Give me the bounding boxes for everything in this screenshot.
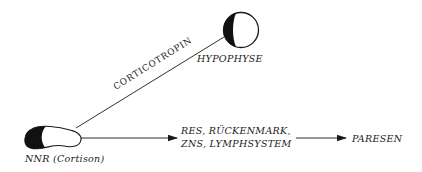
hypophyse-gland-icon bbox=[223, 13, 258, 48]
paresen-label: PARESEN bbox=[352, 134, 402, 144]
hypophyse-label: HYPOPHYSE bbox=[197, 54, 263, 64]
targets-label-line2: ZNS, LYMPHSYSTEM bbox=[181, 139, 292, 149]
nnr-adrenal-icon bbox=[25, 126, 81, 149]
targets-label-line1: RES, RÜCKENMARK, bbox=[181, 126, 291, 136]
nnr-label: NNR (Cortison) bbox=[25, 154, 105, 164]
corticotropin-edge bbox=[76, 37, 224, 128]
